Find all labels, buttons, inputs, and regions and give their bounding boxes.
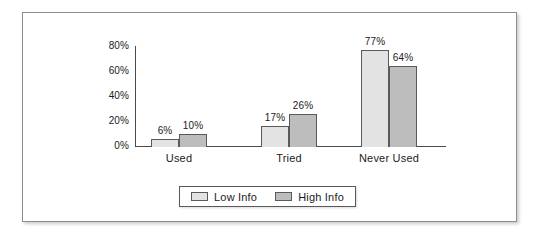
bar-group-never-used: 77% 64% (361, 46, 417, 147)
chart-figure-frame: 80% 60% 40% 20% 0% 6% 10 (22, 12, 517, 222)
y-axis-tick-label: 60% (79, 65, 129, 76)
bar-tried-high-info[interactable]: 26% (289, 114, 317, 147)
bar-never-used-low-info[interactable]: 77% (361, 50, 389, 147)
y-axis-tick-label: 40% (79, 90, 129, 101)
bar-value-label: 77% (365, 36, 385, 47)
y-axis-tick-label: 0% (79, 140, 129, 151)
bar-value-label: 10% (183, 120, 203, 131)
bar-value-label: 64% (393, 52, 413, 63)
low-info-swatch-icon (191, 192, 208, 201)
screenshot-canvas: 80% 60% 40% 20% 0% 6% 10 (0, 0, 537, 236)
bar-value-label: 17% (265, 112, 285, 123)
bar-value-label: 6% (158, 125, 173, 136)
y-axis-tick-label: 20% (79, 115, 129, 126)
bar-group-tried: 17% 26% (261, 46, 317, 147)
legend-label: Low Info (214, 191, 257, 203)
bar-never-used-high-info[interactable]: 64% (389, 66, 417, 147)
x-axis-category-never-used: Never Used (355, 152, 423, 164)
bar-value-label: 26% (293, 100, 313, 111)
bar-group-used: 6% 10% (151, 46, 207, 147)
chart-legend: Low Info High Info (179, 186, 356, 207)
chart-plot-area: 80% 60% 40% 20% 0% 6% 10 (23, 13, 518, 223)
y-axis-tick-label: 80% (79, 40, 129, 51)
legend-item-low-info[interactable]: Low Info (191, 191, 257, 203)
y-axis-line (135, 46, 136, 147)
bar-tried-low-info[interactable]: 17% (261, 126, 289, 147)
legend-label: High Info (298, 191, 344, 203)
x-axis-category-tried: Tried (261, 152, 317, 164)
x-axis-category-used: Used (151, 152, 207, 164)
legend-item-high-info[interactable]: High Info (275, 191, 344, 203)
bar-used-high-info[interactable]: 10% (179, 134, 207, 147)
bar-used-low-info[interactable]: 6% (151, 139, 179, 147)
high-info-swatch-icon (275, 192, 292, 201)
